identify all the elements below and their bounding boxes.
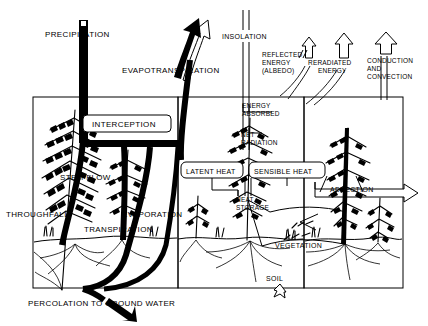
ground-surface	[34, 236, 402, 242]
label-interception: INTERCEPTION	[92, 120, 156, 129]
label-energy-absorbed-2: ABSORBED	[242, 110, 280, 117]
evaporation-flow	[181, 60, 190, 160]
label-net-radiation-2: RADIATION	[241, 139, 278, 146]
label-reflected-3: (ALBEDO)	[262, 67, 294, 75]
label-transpiration: TRANSPIRATION	[84, 225, 153, 234]
label-evapotranspiration: EVAPOTRANSPIRATION	[122, 66, 220, 75]
label-conduction-2: AND	[367, 65, 381, 72]
label-heat-storage-2: STORAGE	[236, 204, 270, 211]
label-throughfall: THROUGHFALL	[6, 210, 69, 219]
label-sensible-heat: SENSIBLE HEAT	[254, 168, 313, 175]
label-insolation: INSOLATION	[222, 33, 267, 40]
label-evaporation: EVAPORATION	[122, 210, 182, 219]
label-reradiated-2: ENERGY	[318, 67, 347, 74]
soil-arrow-icon	[274, 284, 286, 298]
diagram-canvas: INTERCEPTION PRECIPITATION EVAPOTRANSPIR…	[0, 0, 428, 326]
label-reradiated-1: RERADIATED	[308, 59, 352, 66]
label-soil: SOIL	[266, 275, 283, 282]
callout-interception: INTERCEPTION	[83, 115, 171, 132]
callout-latent-heat: LATENT HEAT	[181, 162, 243, 178]
label-vegetation: VEGETATION	[275, 242, 322, 249]
label-reflected-2: ENERGY	[262, 59, 291, 66]
label-energy-absorbed-1: ENERGY	[242, 102, 271, 109]
middle-panel-frame	[178, 97, 304, 288]
label-stem-flow: STEM FLOW	[60, 173, 111, 182]
label-percolation: PERCOLATION TO GROUND WATER	[28, 299, 175, 308]
label-conduction-3: CONVECTION	[367, 73, 412, 80]
label-precipitation: PRECIPITATION	[45, 30, 110, 39]
label-latent-heat: LATENT HEAT	[186, 168, 236, 175]
callout-sensible-heat: SENSIBLE HEAT	[249, 162, 325, 178]
label-reflected-1: REFLECTED	[262, 51, 303, 58]
label-conduction-1: CONDUCTION	[367, 57, 413, 64]
hydrologic-energy-diagram: INTERCEPTION PRECIPITATION EVAPOTRANSPIR…	[0, 0, 428, 326]
label-heat-storage-1: HEAT	[236, 196, 254, 203]
right-vegetation-group	[306, 128, 400, 280]
